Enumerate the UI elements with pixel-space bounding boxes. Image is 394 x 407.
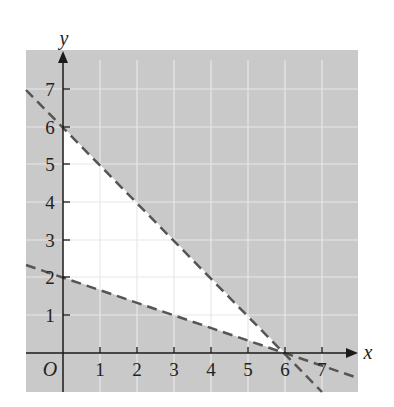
x-tick-label: 4 xyxy=(206,359,216,380)
y-tick-label: 3 xyxy=(45,230,55,251)
x-tick-label: 7 xyxy=(317,359,327,380)
origin-label: O xyxy=(43,358,57,380)
y-tick-label: 1 xyxy=(45,305,55,326)
x-tick-label: 6 xyxy=(280,359,290,380)
x-tick-label: 5 xyxy=(243,359,253,380)
x-axis-label: x xyxy=(363,341,373,363)
y-tick-label: 5 xyxy=(45,154,55,175)
y-tick-label: 6 xyxy=(45,117,55,138)
y-tick-label: 7 xyxy=(45,79,55,100)
x-tick-label: 3 xyxy=(169,359,179,380)
y-tick-label: 2 xyxy=(45,267,55,288)
x-tick-label: 2 xyxy=(132,359,142,380)
y-tick-label: 4 xyxy=(45,192,55,213)
x-tick-label: 1 xyxy=(95,359,105,380)
inequality-graph: 1 2 3 4 5 6 7 1 2 3 4 5 6 7 O x y xyxy=(0,0,394,407)
y-axis-label: y xyxy=(58,27,69,50)
